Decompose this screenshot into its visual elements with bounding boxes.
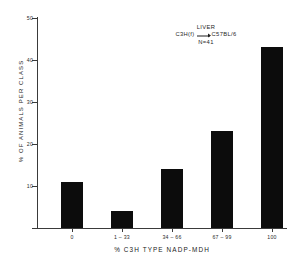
y-tick-label-50: 50 [11, 15, 33, 21]
x-tick-0 [72, 228, 73, 232]
x-axis-title: % C3H TYPE NADP-MDH [37, 246, 287, 253]
bar-category-2 [161, 169, 183, 228]
annotation-sample-size: N=41 [152, 39, 260, 46]
annotation-tissue: LIVER [152, 24, 260, 31]
annotation-recipient-strain: C57BL/6 [212, 31, 237, 38]
x-tick-label-4: 100 [249, 234, 295, 240]
y-tick-0 [32, 228, 37, 229]
x-axis-line [37, 228, 287, 229]
x-tick-label-3: 67 – 99 [199, 234, 245, 240]
x-tick-label-1: 1 – 33 [99, 234, 145, 240]
bar-chart: 10 20 30 40 50 0 1 – 33 34 – 66 67 – 99 … [0, 0, 305, 263]
x-tick-label-0: 0 [49, 234, 95, 240]
annotation-strain-cross: C3H(f) C57BL/6 [152, 31, 260, 38]
arrow-right-icon [197, 35, 210, 36]
bar-category-3 [211, 131, 233, 228]
x-tick-2 [172, 228, 173, 232]
y-tick-label-10: 10 [11, 183, 33, 189]
bar-category-1 [111, 211, 133, 228]
y-axis-title: % OF ANIMALS PER CLASS [18, 46, 24, 176]
x-tick-4 [272, 228, 273, 232]
bar-category-0 [61, 182, 83, 228]
x-tick-label-2: 34 – 66 [149, 234, 195, 240]
bar-category-4 [261, 47, 283, 228]
x-tick-1 [122, 228, 123, 232]
annotation-donor-strain: C3H(f) [175, 31, 194, 38]
x-tick-3 [222, 228, 223, 232]
y-axis-line [37, 17, 38, 229]
chart-annotation: LIVER C3H(f) C57BL/6 N=41 [152, 24, 260, 46]
